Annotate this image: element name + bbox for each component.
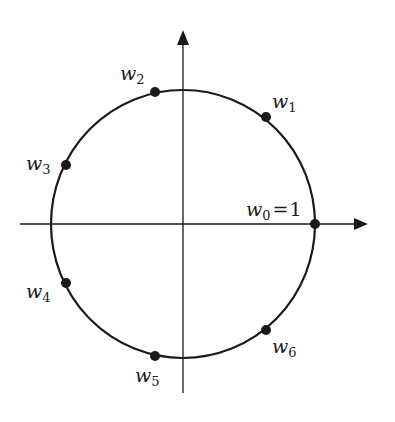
roots-of-unity-diagram: w0=1 w1 w2 w3 w4 w5 w6 bbox=[0, 0, 395, 422]
label-w0: w0=1 bbox=[246, 198, 302, 223]
point-w0 bbox=[310, 219, 320, 229]
label-w1: w1 bbox=[272, 90, 297, 115]
point-w1 bbox=[261, 112, 271, 122]
point-w3 bbox=[61, 160, 71, 170]
label-w3: w3 bbox=[26, 152, 51, 177]
label-w2: w2 bbox=[120, 62, 145, 87]
label-w5: w5 bbox=[135, 364, 160, 389]
y-axis-arrow-icon bbox=[177, 30, 189, 45]
label-w4: w4 bbox=[26, 280, 51, 305]
point-w6 bbox=[261, 325, 271, 335]
x-axis-arrow-icon bbox=[354, 218, 368, 230]
point-w4 bbox=[61, 278, 71, 288]
point-w2 bbox=[150, 87, 160, 97]
label-w6: w6 bbox=[272, 335, 297, 360]
point-w5 bbox=[150, 351, 160, 361]
